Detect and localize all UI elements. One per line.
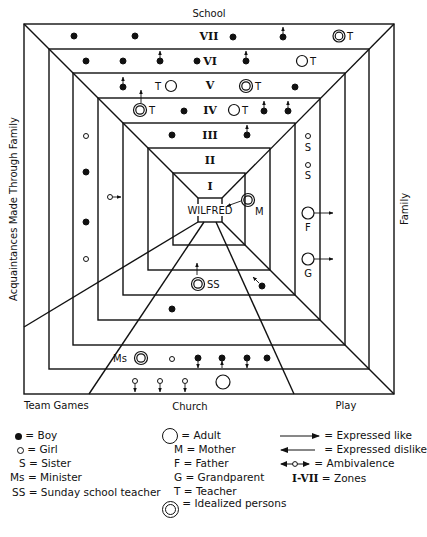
boy-icon bbox=[83, 219, 89, 225]
legend-item-minister: Ms = Minister bbox=[10, 471, 82, 484]
teacher-tag: T bbox=[154, 81, 162, 92]
zone-label-ii: II bbox=[205, 154, 215, 167]
legend-text: = Sunday school teacher bbox=[29, 486, 161, 498]
center-label-group: WILFRED bbox=[187, 204, 232, 216]
dislike-arrow-icon bbox=[227, 201, 241, 206]
legend-text: = Idealized persons bbox=[182, 497, 286, 509]
idealized-person-icon bbox=[333, 30, 345, 42]
boy-icon bbox=[244, 132, 250, 138]
teacher-tag: T bbox=[309, 56, 317, 67]
legend-text: = Expressed dislike bbox=[324, 443, 427, 455]
boy-icon bbox=[280, 34, 286, 40]
boy-icon bbox=[230, 34, 236, 40]
family-sector-persons: M S S F G bbox=[227, 134, 333, 280]
idealized-person-icon bbox=[192, 278, 205, 291]
divider-bottom-right bbox=[222, 222, 394, 394]
boy-icon bbox=[264, 355, 270, 361]
adult-icon bbox=[216, 375, 230, 389]
boy-icon bbox=[169, 306, 175, 312]
zone-label-i: I bbox=[207, 180, 212, 193]
girl-icon bbox=[84, 134, 89, 139]
girl-icon bbox=[158, 379, 163, 384]
girl-icon bbox=[183, 379, 188, 384]
adult-icon bbox=[302, 207, 314, 219]
adult-circle-icon bbox=[162, 428, 178, 444]
sister-tag: S bbox=[305, 142, 311, 153]
teacher-tag: T bbox=[241, 105, 249, 116]
legend-symbol: M bbox=[174, 443, 183, 455]
girl-icon bbox=[170, 357, 175, 362]
sunday-school-teacher-tag: SS bbox=[207, 279, 220, 290]
legend-symbol: G bbox=[174, 471, 182, 483]
boy-icon bbox=[194, 58, 200, 64]
zone-label-iii: III bbox=[202, 129, 217, 142]
idealized-person-icon bbox=[242, 194, 255, 207]
legend-text: = Minister bbox=[28, 471, 82, 483]
boy-icon bbox=[292, 84, 298, 90]
church-sector-persons: SS Ms bbox=[113, 263, 270, 392]
zone-label-vi: VI bbox=[202, 55, 217, 68]
play-sector-persons bbox=[253, 277, 265, 289]
teacher-tag: T bbox=[148, 105, 156, 116]
side-label-left: Acquaintances Made Through Family bbox=[8, 117, 19, 301]
ambivalence-arrow-icon bbox=[279, 460, 311, 468]
legend-text: = Adult bbox=[181, 429, 221, 441]
boy-icon bbox=[132, 33, 138, 39]
idealized-person-icon bbox=[134, 104, 147, 117]
minister-tag: Ms bbox=[113, 353, 127, 364]
zone-label-v: V bbox=[205, 79, 215, 92]
legend-item-sunday-school-teacher: SS = Sunday school teacher bbox=[12, 486, 161, 499]
side-label-bottom-center: Church bbox=[172, 401, 207, 412]
legend-item-boy: = Boy bbox=[15, 429, 57, 442]
boy-icon bbox=[244, 355, 250, 361]
legend-item-grandparent: G = Grandparent bbox=[174, 471, 264, 484]
legend-text: = Sister bbox=[29, 457, 71, 469]
boy-icon bbox=[157, 58, 163, 64]
father-tag: F bbox=[305, 222, 311, 233]
legend-text: = Ambivalence bbox=[314, 457, 394, 469]
boy-dot-icon bbox=[15, 433, 22, 440]
zone-labels: VII VI V IV III II I bbox=[199, 30, 219, 193]
legend-item-father: F = Father bbox=[174, 457, 229, 470]
girl-icon bbox=[306, 134, 311, 139]
adult-icon bbox=[229, 105, 240, 116]
legend-text: = Grandparent bbox=[185, 471, 264, 483]
legend-symbol: SS bbox=[12, 486, 25, 498]
sister-tag: S bbox=[305, 170, 311, 181]
legend-symbol: I-VII bbox=[292, 472, 318, 484]
legend-symbol: Ms bbox=[10, 471, 25, 483]
mother-tag: M bbox=[255, 206, 264, 217]
boy-icon bbox=[195, 355, 201, 361]
legend-item-expressed-dislike: = Expressed dislike bbox=[279, 443, 427, 456]
boy-icon bbox=[83, 169, 89, 175]
legend-symbol: T bbox=[174, 485, 180, 497]
teacher-tag: T bbox=[346, 31, 354, 42]
girl-ring-icon bbox=[17, 447, 24, 454]
legend-text: = Girl bbox=[27, 443, 57, 455]
sociometric-target-diagram: WILFRED School Family Acquaintances Made… bbox=[0, 0, 418, 420]
legend-item-expressed-like: = Expressed like bbox=[279, 429, 412, 442]
legend: = Boy = Girl S = Sister Ms = Minister SS… bbox=[0, 420, 418, 537]
idealized-double-circle-icon bbox=[162, 501, 179, 518]
legend-text: = Expressed like bbox=[324, 429, 412, 441]
boy-icon bbox=[243, 58, 249, 64]
side-label-top: School bbox=[192, 8, 225, 19]
girl-icon bbox=[306, 163, 311, 168]
arrow-right-icon bbox=[279, 432, 321, 440]
boy-icon bbox=[71, 33, 77, 39]
legend-symbol: S bbox=[19, 457, 26, 469]
zone-label-iv: IV bbox=[203, 104, 217, 117]
legend-text: = Father bbox=[183, 457, 228, 469]
boy-icon bbox=[169, 132, 175, 138]
idealized-person-icon bbox=[240, 80, 253, 93]
legend-symbol: F bbox=[174, 457, 180, 469]
legend-item-zones: I-VII = Zones bbox=[292, 472, 366, 485]
side-label-bottom-right: Play bbox=[336, 400, 357, 411]
divider-church-left bbox=[89, 222, 204, 394]
girl-icon bbox=[84, 257, 89, 262]
boy-icon bbox=[181, 108, 187, 114]
divider-church-right bbox=[216, 222, 294, 394]
legend-item-ambivalence: = Ambivalence bbox=[279, 457, 394, 470]
legend-text: = Zones bbox=[322, 472, 366, 484]
legend-item-adult: = Adult bbox=[162, 428, 221, 444]
